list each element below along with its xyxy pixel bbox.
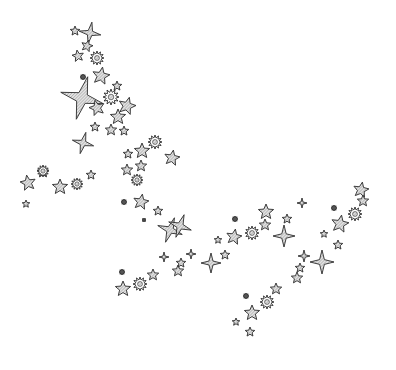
small-dot-star-icon xyxy=(119,269,125,275)
small-dot-star-icon xyxy=(80,74,86,80)
star-illustration xyxy=(0,0,396,370)
small-dot-star-icon xyxy=(142,218,146,222)
small-dot-star-icon xyxy=(331,205,337,211)
small-dot-star-icon xyxy=(232,216,238,222)
small-dot-star-icon xyxy=(121,199,127,205)
small-dot-star-icon xyxy=(243,293,249,299)
